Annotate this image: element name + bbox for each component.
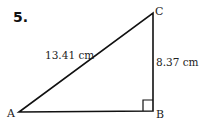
right-angle-marker — [143, 100, 153, 111]
hypotenuse-length: 13.41 cm — [45, 49, 94, 61]
problem-number: 5. — [13, 9, 28, 25]
triangle-abc — [19, 13, 153, 112]
vertex-label-b: B — [156, 108, 164, 121]
vertex-label-a: A — [6, 107, 16, 120]
vertex-label-c: C — [155, 5, 163, 18]
side-bc-length: 8.37 cm — [156, 56, 199, 68]
right-triangle-diagram: 5. A B C 13.41 cm 8.37 cm — [0, 0, 201, 132]
